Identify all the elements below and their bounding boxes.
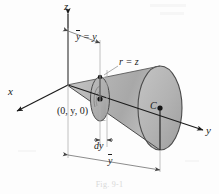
y-axis-label: y (206, 125, 211, 136)
y-bar-glyph-2: y (108, 156, 112, 166)
r-equals-z-label: r = z (119, 57, 139, 67)
ybar-dimension-line (68, 155, 160, 170)
origin-point-label: (0, y, 0) (57, 106, 88, 116)
y-bar-label: y (108, 156, 112, 166)
y-bar-equals-y-label: y = y (76, 32, 97, 42)
r-eq-z-leader (104, 66, 118, 75)
y-bar-glyph: y (76, 32, 80, 42)
dy-label: dy (94, 141, 103, 151)
centroid-point (157, 105, 162, 110)
figure-container: z x y y = y r = z (0, y, 0) C dy y Fig. … (0, 0, 219, 194)
x-axis-label: x (8, 86, 13, 97)
z-axis-label: z (64, 1, 68, 12)
figure-caption: Fig. 9-1 (0, 180, 219, 189)
y-bar-equals-y-rest: = y (80, 31, 96, 42)
centroid-label: C (150, 101, 157, 111)
